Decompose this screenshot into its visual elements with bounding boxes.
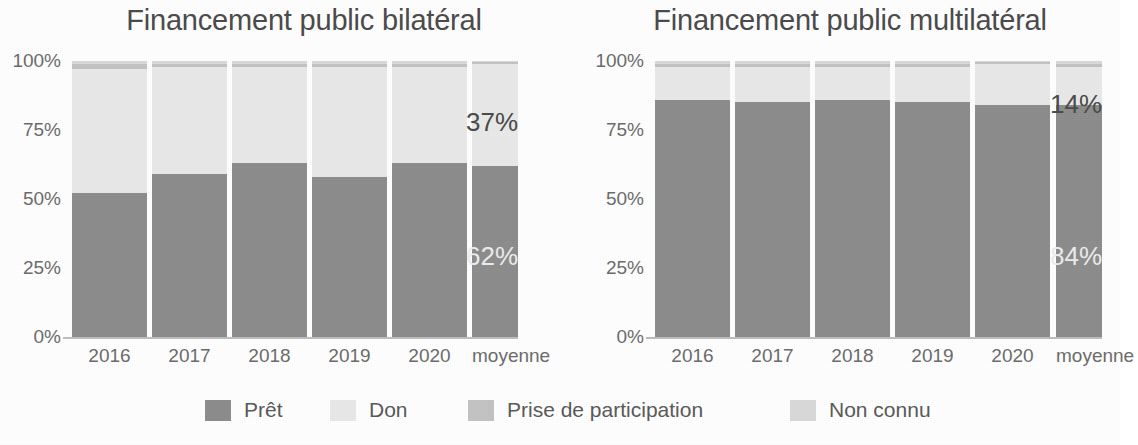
x-axis-label: 2020	[975, 345, 1050, 367]
x-axis-label: 2019	[895, 345, 970, 367]
y-axis-tick-100: 100%	[595, 50, 644, 72]
bar-segment-don[interactable]	[312, 67, 387, 177]
bar-group-2016[interactable]: 2016	[655, 61, 730, 337]
legend-swatch-icon-pret	[205, 400, 231, 421]
y-axis-tick-50: 50%	[606, 188, 644, 210]
bar-group-2018[interactable]: 2018	[232, 61, 307, 337]
x-axis-label: 2017	[152, 345, 227, 367]
chart-panel-multilateral: Financement public multilatéral 100% 75%…	[560, 0, 1120, 378]
y-axis-tick-50: 50%	[23, 188, 61, 210]
bar-segment-pret[interactable]	[815, 100, 890, 337]
chart-panel-bilateral: Financement public bilatéral 100% 75% 50…	[0, 0, 560, 378]
bar-segment-don[interactable]	[895, 67, 970, 103]
bar-segment-pret[interactable]	[392, 163, 467, 337]
y-axis-tick-100: 100%	[12, 50, 61, 72]
bar-group-2019[interactable]: 2019	[895, 61, 970, 337]
bar-segment-pret[interactable]	[1056, 105, 1102, 337]
y-axis-tick-0: 0%	[34, 326, 61, 348]
bar-segment-don[interactable]	[655, 67, 730, 100]
legend-label: Prêt	[244, 398, 283, 422]
x-axis-line	[646, 337, 1102, 339]
legend-label: Don	[369, 398, 408, 422]
x-axis-label: 2019	[312, 345, 387, 367]
y-axis-tick-0: 0%	[617, 326, 644, 348]
legend-item-prise-de-participation[interactable]: Prise de participation	[468, 398, 703, 422]
chart-title-bilateral: Financement public bilatéral	[0, 4, 584, 37]
legend-label: Prise de participation	[507, 398, 703, 422]
bar-segment-pret[interactable]	[735, 102, 810, 337]
bar-group-2019[interactable]: 2019	[312, 61, 387, 337]
x-axis-label: 2016	[72, 345, 147, 367]
bar-group-2020[interactable]: 2020	[975, 61, 1050, 337]
x-axis-label: moyenne	[472, 345, 518, 367]
y-axis-tick-25: 25%	[23, 257, 61, 279]
x-axis-label: 2018	[815, 345, 890, 367]
plot-area-bilateral: 100% 75% 50% 25% 0% 2016	[72, 61, 518, 337]
x-axis-label: 2017	[735, 345, 810, 367]
bar-segment-don[interactable]	[815, 67, 890, 100]
bar-segment-pret[interactable]	[975, 105, 1050, 337]
bar-group-2016[interactable]: 2016	[72, 61, 147, 337]
plot-area-multilateral: 100% 75% 50% 25% 0% 2016	[655, 61, 1102, 337]
bar-group-2020[interactable]: 2020	[392, 61, 467, 337]
bar-group-2018[interactable]: 2018	[815, 61, 890, 337]
bar-segment-pret[interactable]	[312, 177, 387, 337]
legend-swatch-icon-non-connu	[790, 400, 816, 421]
bar-segment-pret[interactable]	[472, 166, 518, 337]
x-axis-label: moyenne	[1056, 345, 1102, 367]
bar-segment-pret[interactable]	[152, 174, 227, 337]
x-axis-line	[63, 337, 518, 339]
bar-segment-don[interactable]	[975, 64, 1050, 105]
chart-title-multilateral: Financement public multilatéral	[560, 4, 1130, 37]
bar-segment-don[interactable]	[232, 67, 307, 164]
bar-group-moyenne[interactable]: moyenne	[1056, 61, 1102, 337]
bar-group-2017[interactable]: 2017	[152, 61, 227, 337]
legend-swatch-icon-prise-de-participation	[468, 400, 494, 421]
legend-label: Non connu	[829, 398, 931, 422]
bar-group-moyenne[interactable]: moyenne	[472, 61, 518, 337]
bar-segment-pret[interactable]	[655, 100, 730, 337]
chart-legend: Prêt Don Prise de participation Non conn…	[0, 398, 1120, 438]
legend-swatch-icon-don	[330, 400, 356, 421]
bar-segment-don[interactable]	[152, 67, 227, 175]
y-axis-tick-75: 75%	[23, 119, 61, 141]
legend-item-non-connu[interactable]: Non connu	[790, 398, 931, 422]
y-axis-tick-25: 25%	[606, 257, 644, 279]
bar-series-container-multilateral: 2016 2017 2018	[655, 61, 1102, 337]
bar-segment-pret[interactable]	[895, 102, 970, 337]
x-axis-label: 2020	[392, 345, 467, 367]
legend-item-pret[interactable]: Prêt	[205, 398, 283, 422]
legend-item-don[interactable]: Don	[330, 398, 408, 422]
x-axis-label: 2018	[232, 345, 307, 367]
bar-segment-don[interactable]	[1056, 67, 1102, 106]
bar-segment-pret[interactable]	[232, 163, 307, 337]
bar-series-container-bilateral: 2016 2017 2018	[72, 61, 518, 337]
bar-segment-don[interactable]	[72, 69, 147, 193]
y-axis-tick-75: 75%	[606, 119, 644, 141]
bar-segment-pret[interactable]	[72, 193, 147, 337]
bar-segment-don[interactable]	[735, 67, 810, 103]
bar-group-2017[interactable]: 2017	[735, 61, 810, 337]
x-axis-label: 2016	[655, 345, 730, 367]
bar-segment-don[interactable]	[472, 64, 518, 166]
bar-segment-don[interactable]	[392, 67, 467, 164]
